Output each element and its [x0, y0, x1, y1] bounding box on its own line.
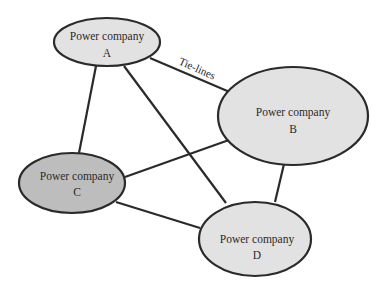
node-a-label: Power company [70, 30, 145, 43]
node-power-company-b: Power company B [218, 67, 368, 165]
edge-b-c [125, 140, 229, 177]
edge-a-d [124, 66, 226, 203]
node-power-company-d: Power company D [199, 202, 311, 276]
node-b-label: Power company [256, 106, 331, 119]
node-a-id: A [103, 47, 112, 59]
node-power-company-c: Power company C [19, 153, 125, 213]
edge-c-d [116, 202, 200, 228]
edge-b-d [275, 164, 284, 202]
node-c-id: C [73, 186, 81, 198]
node-power-company-a: Power company A [54, 18, 160, 66]
node-b-id: B [289, 123, 297, 135]
power-network-diagram: Tie-lines Power company A Power company … [0, 0, 386, 288]
node-d-label: Power company [220, 233, 295, 246]
diagram-canvas: Tie-lines Power company A Power company … [0, 0, 386, 288]
node-c-label: Power company [40, 170, 115, 183]
edge-a-c [79, 66, 96, 153]
node-d-id: D [253, 249, 261, 261]
